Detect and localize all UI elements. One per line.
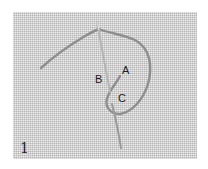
- label-c: C: [118, 93, 126, 104]
- label-a: A: [122, 65, 129, 76]
- thread-tail: [112, 104, 121, 148]
- label-b: B: [95, 74, 102, 85]
- stitch-illustration: [0, 0, 208, 169]
- thread-path: [41, 29, 150, 114]
- figure-number: 1: [20, 141, 29, 155]
